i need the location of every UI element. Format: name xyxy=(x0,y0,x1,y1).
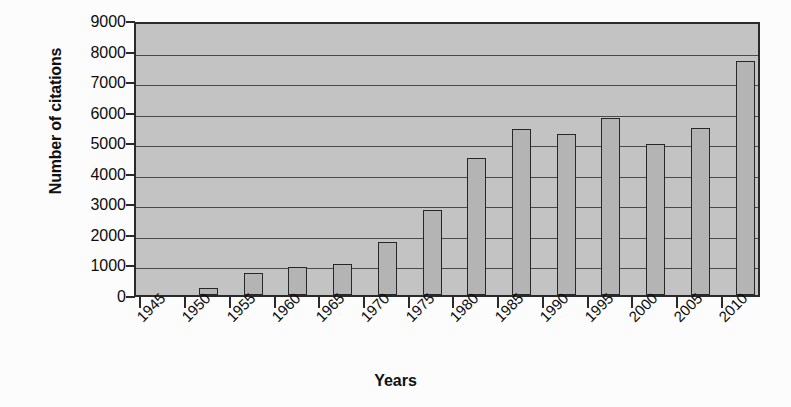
y-axis-tick-label: 9000 xyxy=(6,13,126,31)
y-axis-tick-label: 7000 xyxy=(6,74,126,92)
gridline xyxy=(136,55,758,56)
bar xyxy=(557,134,576,295)
y-axis-tick-label: 4000 xyxy=(6,166,126,184)
y-axis-tick-label: 8000 xyxy=(6,44,126,62)
chart-figure: Number of citations 01000200030004000500… xyxy=(0,0,791,407)
bar xyxy=(691,128,710,295)
bar xyxy=(467,158,486,295)
gridline xyxy=(136,116,758,117)
y-axis-tick-label: 2000 xyxy=(6,227,126,245)
y-axis-tick-label: 1000 xyxy=(6,257,126,275)
gridline xyxy=(136,85,758,86)
y-axis-tick-label: 6000 xyxy=(6,105,126,123)
bar xyxy=(601,118,620,295)
x-axis-title: Years xyxy=(0,372,791,390)
bar xyxy=(736,61,755,295)
bar xyxy=(646,144,665,295)
y-axis-tick-label: 5000 xyxy=(6,135,126,153)
bar xyxy=(512,129,531,295)
bar xyxy=(423,210,442,295)
y-axis-tick-label: 3000 xyxy=(6,196,126,214)
bar xyxy=(378,242,397,295)
y-axis-tick-label: 0 xyxy=(6,288,126,306)
plot-area xyxy=(134,22,760,297)
